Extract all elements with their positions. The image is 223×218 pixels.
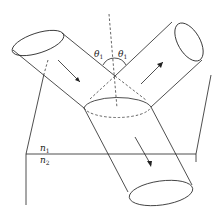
n1-label: n1 [40, 143, 50, 154]
n2-label: n2 [40, 155, 50, 166]
incident-tube [9, 25, 115, 108]
transmitted-tube [84, 107, 194, 209]
transmitted-arrowhead-icon [147, 161, 152, 167]
interface-plane [26, 74, 211, 205]
theta-left-label: θ1 [94, 49, 103, 60]
reflected-tube [115, 18, 209, 107]
normal-line [109, 14, 117, 108]
junction [84, 76, 151, 118]
theta-right-label: θ1 [118, 49, 127, 60]
transmitted-arrow [135, 137, 151, 165]
optics-diagram: θ1 θ1 n1 n2 [0, 0, 223, 218]
